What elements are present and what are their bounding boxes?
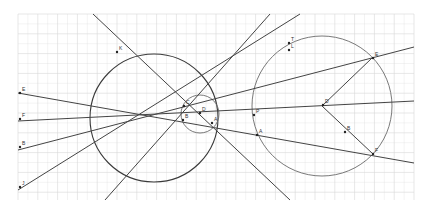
point-D[interactable] [322,104,324,106]
point-E[interactable] [372,57,374,59]
line-J[interactable] [18,14,300,190]
point-B[interactable] [19,146,21,148]
point-C[interactable] [183,105,185,107]
point-label: B [185,113,189,119]
point-label: J [22,180,25,186]
point-label: L [291,43,294,49]
point-B[interactable] [182,119,184,121]
point-T[interactable] [288,42,290,44]
point-A[interactable] [211,122,213,124]
point-B[interactable] [344,131,346,133]
point-A[interactable] [256,134,258,136]
point-P[interactable] [253,114,255,116]
point-label: K [119,45,123,51]
point-label: C [186,99,190,105]
point-label: F [375,147,378,153]
circles-layer [90,36,392,182]
point-label: B [347,125,351,131]
point-E[interactable] [19,92,21,94]
point-J[interactable] [19,186,21,188]
point-label: T [291,36,294,42]
point-label: E [22,86,26,92]
point-L[interactable] [288,49,290,51]
point-label: D [325,98,329,104]
point-label: D [202,106,206,112]
grid [18,14,414,200]
point-F[interactable] [19,118,21,120]
point-K[interactable] [116,51,118,53]
point-D[interactable] [199,112,201,114]
point-F[interactable] [372,153,374,155]
point-label: F [22,112,25,118]
geometry-canvas[interactable]: EFBJKTLEDABFPDCBA [0,0,428,211]
